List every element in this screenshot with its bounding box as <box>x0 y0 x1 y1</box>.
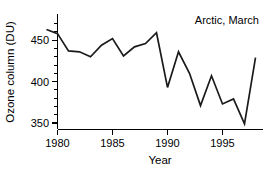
y-tick-label-400: 400 <box>31 76 49 88</box>
ozone-column-line-chart: 450 400 350 1980 1985 1990 1995 Year Ozo… <box>0 0 272 171</box>
x-tick-labels: 1980 1985 1990 1995 <box>45 137 234 149</box>
y-axis-title: Ozone column (DU) <box>4 21 16 123</box>
y-tick-label-350: 350 <box>31 117 49 129</box>
x-axis-title: Year <box>148 154 171 166</box>
x-tick-label-1995: 1995 <box>210 137 234 149</box>
y-axis-major-ticks <box>52 40 58 123</box>
chart-annotation: Arctic, March <box>195 14 259 26</box>
axes-group <box>58 14 264 130</box>
y-tick-label-450: 450 <box>31 34 49 46</box>
chart-figure: 450 400 350 1980 1985 1990 1995 Year Ozo… <box>0 0 272 171</box>
y-tick-labels: 450 400 350 <box>31 34 49 129</box>
x-tick-label-1990: 1990 <box>155 137 179 149</box>
ozone-data-line <box>47 29 256 123</box>
x-axis-major-ticks <box>58 130 223 136</box>
x-tick-label-1985: 1985 <box>100 137 124 149</box>
x-tick-label-1980: 1980 <box>45 137 69 149</box>
data-series-group <box>47 29 256 123</box>
